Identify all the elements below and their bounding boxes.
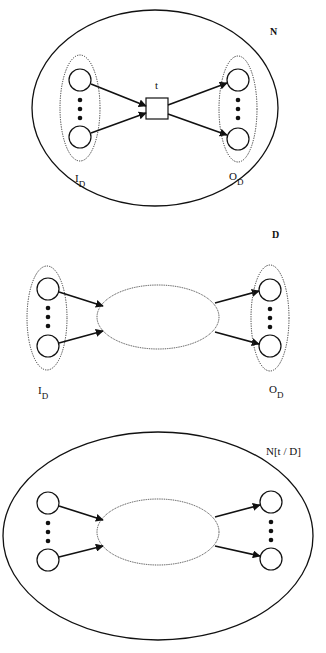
arc-input-top (91, 84, 146, 106)
output-place-top (227, 69, 249, 91)
net-refined: N[t / D] (3, 432, 313, 640)
output-place-bottom (227, 128, 249, 150)
input-place-bottom (37, 549, 59, 571)
input-place-top (69, 69, 91, 91)
output-place-top (260, 491, 282, 513)
input-set-label: ID (38, 384, 49, 401)
subnet-d-body (97, 499, 219, 565)
input-place-top (37, 278, 59, 300)
arc-output-bottom (168, 114, 227, 135)
transition-t (146, 98, 168, 119)
arc-input-bottom (59, 331, 103, 343)
transition-refinement-diagram: N ID t OD D ID (0, 0, 326, 653)
subnet-d-body (97, 285, 219, 349)
output-place-bottom (259, 335, 281, 357)
input-place-bottom (69, 126, 91, 148)
arc-output-bottom (215, 546, 260, 556)
input-set-label: ID (75, 172, 86, 189)
net-n: N ID t OD (32, 10, 278, 206)
output-place-bottom (260, 548, 282, 570)
arc-output-top (168, 83, 227, 105)
net-refined-title: N[t / D] (266, 445, 301, 457)
output-set-label: OD (269, 383, 284, 400)
net-d: D ID OD (27, 229, 289, 401)
input-place-top (37, 492, 59, 514)
arc-output-top (215, 505, 260, 517)
net-d-title: D (272, 229, 279, 240)
arc-input-bottom (59, 546, 103, 557)
arc-input-top (59, 292, 103, 306)
output-place-top (259, 279, 281, 301)
net-n-title: N (270, 26, 278, 37)
arc-input-top (59, 506, 103, 520)
transition-t-label: t (155, 79, 158, 91)
input-place-bottom (37, 335, 59, 357)
